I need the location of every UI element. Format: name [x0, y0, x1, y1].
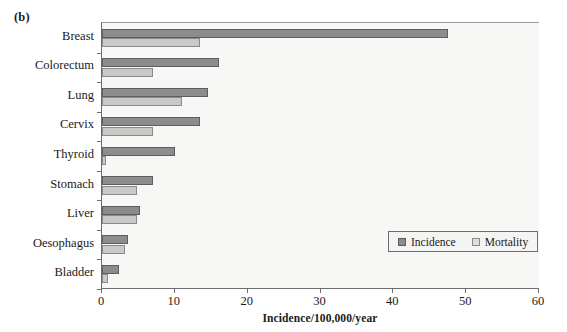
x-tick-label-10: 10: [154, 294, 194, 309]
x-tick-60: [538, 288, 539, 293]
x-tick-label-40: 40: [372, 294, 412, 309]
bar-incidence-bladder: [102, 265, 119, 274]
y-axis-label-oesophagus: Oesophagus: [4, 236, 94, 251]
x-tick-label-30: 30: [300, 294, 340, 309]
bar-mortality-bladder: [102, 274, 108, 283]
bar-mortality-colorectum: [102, 68, 153, 77]
bar-mortality-lung: [102, 97, 182, 106]
y-tick-oesophagus: [97, 259, 102, 260]
bar-mortality-breast: [102, 38, 200, 47]
legend-item-mortality: Mortality: [472, 236, 528, 248]
y-axis-label-bladder: Bladder: [4, 265, 94, 280]
bar-incidence-liver: [102, 206, 140, 215]
bar-incidence-colorectum: [102, 58, 219, 67]
bar-incidence-lung: [102, 88, 208, 97]
y-tick-stomach: [97, 200, 102, 201]
bar-incidence-thyroid: [102, 147, 175, 156]
legend-swatch-incidence: [398, 238, 406, 246]
y-axis-label-lung: Lung: [4, 88, 94, 103]
x-tick-0: [101, 288, 102, 293]
y-axis-label-liver: Liver: [4, 206, 94, 221]
y-tick-thyroid: [97, 171, 102, 172]
bar-mortality-liver: [102, 215, 137, 224]
bar-incidence-oesophagus: [102, 235, 128, 244]
bar-incidence-cervix: [102, 117, 200, 126]
x-tick-label-0: 0: [81, 294, 121, 309]
x-tick-50: [465, 288, 466, 293]
y-axis-label-breast: Breast: [4, 29, 94, 44]
x-tick-label-20: 20: [227, 294, 267, 309]
x-tick-label-60: 60: [518, 294, 558, 309]
x-axis-title: Incidence/100,000/year: [101, 312, 539, 324]
x-tick-label-50: 50: [445, 294, 485, 309]
panel-label: (b): [14, 10, 30, 25]
legend-swatch-mortality: [472, 238, 480, 246]
legend-label-mortality: Mortality: [485, 236, 528, 248]
y-axis-label-colorectum: Colorectum: [4, 58, 94, 73]
x-tick-20: [247, 288, 248, 293]
y-tick-liver: [97, 230, 102, 231]
y-tick-cervix: [97, 141, 102, 142]
bar-incidence-breast: [102, 29, 448, 38]
bar-mortality-stomach: [102, 186, 137, 195]
y-axis-label-stomach: Stomach: [4, 177, 94, 192]
y-tick-breast: [97, 53, 102, 54]
bar-mortality-thyroid: [102, 156, 106, 165]
bar-mortality-cervix: [102, 127, 153, 136]
bar-incidence-stomach: [102, 176, 153, 185]
y-axis-label-cervix: Cervix: [4, 117, 94, 132]
y-axis-label-thyroid: Thyroid: [4, 147, 94, 162]
x-tick-30: [320, 288, 321, 293]
chart-legend: Incidence Mortality: [388, 231, 538, 252]
legend-item-incidence: Incidence: [398, 236, 456, 248]
legend-label-incidence: Incidence: [411, 236, 456, 248]
x-tick-10: [174, 288, 175, 293]
bar-chart-figure: (b) BreastColorectumLungCervixThyroidSto…: [0, 0, 567, 332]
bar-mortality-oesophagus: [102, 245, 125, 254]
y-tick-colorectum: [97, 82, 102, 83]
y-tick-lung: [97, 112, 102, 113]
x-tick-40: [392, 288, 393, 293]
